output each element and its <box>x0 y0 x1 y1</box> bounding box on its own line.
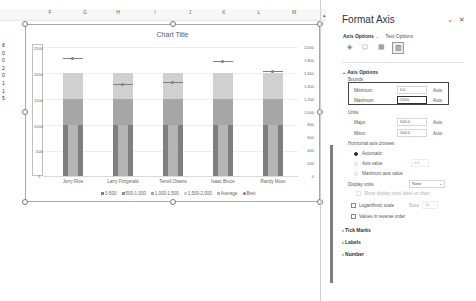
primary-vertical-axis[interactable] <box>32 44 43 176</box>
maximum-input[interactable]: 2000 <box>397 96 427 104</box>
effects-icon[interactable]: ⬠ <box>360 42 370 52</box>
horizontal-axis-crosses-label: Horizontal axis crosses <box>348 141 394 146</box>
display-units-dropdown[interactable]: None⌄ <box>409 180 445 188</box>
section-labels[interactable]: › Labels <box>342 239 361 245</box>
legend-item[interactable]: 500-1,000 <box>122 191 146 196</box>
chevron-down-icon[interactable]: ⌄ <box>447 16 453 24</box>
axis-value-input[interactable]: 0.0 <box>411 159 429 167</box>
tab-text-options[interactable]: Text Options <box>385 33 413 39</box>
automatic-radio[interactable] <box>354 152 358 156</box>
column-header-j[interactable]: J <box>180 9 200 21</box>
section-tick-marks[interactable]: › Tick Marks <box>342 227 371 233</box>
y2-tick: 200 <box>296 161 314 166</box>
close-icon[interactable]: ✕ <box>459 16 465 24</box>
chevron-down-icon: ⌄ <box>342 69 346 75</box>
column-header-k[interactable]: K <box>214 9 234 21</box>
segment-1000-1500 <box>113 99 133 125</box>
bar-jerry-rice[interactable] <box>63 73 83 176</box>
legend-item[interactable]: 1,000-1,500 <box>151 191 179 196</box>
column-header-i[interactable]: I <box>145 9 165 21</box>
x-axis-line <box>43 176 298 177</box>
cell-value: 8 <box>2 42 8 50</box>
logarithmic-scale-label: Logarithmic scale <box>359 203 394 208</box>
resize-handle-left[interactable] <box>22 109 28 115</box>
chart-legend[interactable]: 0-500 500-1,000 1,000-1,500 1,500-2,000 … <box>101 191 256 196</box>
minimum-auto-button[interactable]: Auto <box>433 88 442 93</box>
axis-options-icon[interactable]: ▥ <box>392 42 404 54</box>
best-marker <box>221 60 224 63</box>
automatic-label: Automatic <box>362 151 382 156</box>
minor-input[interactable]: 100.0 <box>397 129 427 137</box>
bar-randy-moss[interactable] <box>263 73 283 176</box>
base-input[interactable]: 10 <box>422 201 438 209</box>
show-units-label-text: Show display units label on chart <box>364 191 430 196</box>
section-label: Axis Options <box>347 69 378 75</box>
minor-auto-button[interactable]: Auto <box>433 131 442 136</box>
segment-1500-2000 <box>63 73 83 99</box>
y2-tick: 1,800 <box>296 58 314 63</box>
segment-1500-2000 <box>113 73 133 99</box>
maximum-axis-value-label: Maximum axis value <box>362 171 403 176</box>
reverse-order-checkbox[interactable] <box>351 214 356 219</box>
logarithmic-scale-checkbox[interactable] <box>351 203 356 208</box>
cell-value: 0 <box>2 57 8 65</box>
fill-line-icon[interactable]: ◈ <box>344 42 354 52</box>
pane-divider[interactable] <box>320 0 321 301</box>
category-label: Isaac Bruce <box>198 179 248 184</box>
best-marker <box>121 83 124 86</box>
resize-handle-bottom[interactable] <box>170 199 176 205</box>
average-bar <box>68 125 78 176</box>
legend-item[interactable]: 1,500-2,000 <box>184 191 212 196</box>
tab-axis-options[interactable]: Axis Options ⌄ <box>343 33 379 39</box>
legend-label: Average <box>221 191 238 196</box>
resize-handle-bl[interactable] <box>22 199 28 205</box>
panel-tabs: Axis Options ⌄ Text Options <box>343 33 413 39</box>
maximum-auto-button[interactable]: Auto <box>433 98 442 103</box>
resize-handle-tl[interactable] <box>22 21 28 27</box>
legend-label: Best <box>247 191 256 196</box>
major-input[interactable]: 500.0 <box>397 118 427 126</box>
bar-terrell-owens[interactable] <box>163 73 183 176</box>
major-auto-button[interactable]: Auto <box>433 120 442 125</box>
average-bar <box>218 125 228 176</box>
y2-tick: 600 <box>296 135 314 140</box>
legend-label: 1,000-1,500 <box>155 191 179 196</box>
minimum-input[interactable]: 0.0 <box>397 86 427 94</box>
resize-handle-top[interactable] <box>170 21 176 27</box>
cell-value: 0 <box>2 72 8 80</box>
column-header-g[interactable]: G <box>75 9 95 21</box>
column-header-m[interactable]: M <box>284 9 304 21</box>
chart-area[interactable]: Chart Title 2500 2000 1500 1000 500 0 2,… <box>25 24 320 202</box>
maximum-axis-value-radio[interactable] <box>354 172 358 176</box>
panel-scrollbar[interactable] <box>330 145 333 283</box>
segment-1000-1500 <box>63 99 83 125</box>
legend-item[interactable]: Average <box>217 191 238 196</box>
show-units-label-checkbox[interactable] <box>356 191 361 196</box>
bar-larry-fitzgerald[interactable] <box>113 73 133 176</box>
segment-1500-2000 <box>163 73 183 99</box>
axis-value-label: Axis value <box>362 161 383 166</box>
section-label: Tick Marks <box>345 227 371 233</box>
minor-label: Minor <box>354 131 365 136</box>
minimum-label: Minimum <box>354 88 372 93</box>
scroll-up-arrow-icon[interactable]: ▴ <box>323 12 326 18</box>
section-number[interactable]: › Number <box>342 251 364 257</box>
column-header-h[interactable]: H <box>108 9 128 21</box>
column-header-l[interactable]: L <box>249 9 269 21</box>
chevron-down-icon: ⌄ <box>439 181 442 187</box>
axis-value-radio[interactable] <box>354 162 358 166</box>
segment-1000-1500 <box>163 99 183 125</box>
legend-item[interactable]: 0-500 <box>101 191 117 196</box>
cell-value: 2 <box>2 65 8 73</box>
y2-tick: 800 <box>296 122 314 127</box>
bar-isaac-bruce[interactable] <box>213 73 233 176</box>
chevron-right-icon: › <box>342 239 344 245</box>
y-tick: 500 <box>36 149 43 154</box>
size-properties-icon[interactable]: ▦ <box>376 42 386 52</box>
y2-tick: 1,600 <box>296 71 314 76</box>
section-label: Number <box>345 251 364 257</box>
legend-item[interactable]: Best <box>243 191 256 196</box>
column-header-f[interactable]: F <box>40 9 60 21</box>
chart-title[interactable]: Chart Title <box>26 31 319 38</box>
section-axis-options[interactable]: ⌄ Axis Options <box>342 69 378 75</box>
